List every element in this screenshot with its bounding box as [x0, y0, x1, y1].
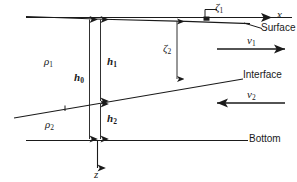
rho2-subscript: 2	[50, 123, 54, 132]
surface-label: Surface	[261, 23, 295, 33]
h0-label: h0	[74, 72, 84, 85]
h2-label: h2	[107, 113, 117, 126]
zeta1-label: ζ1	[215, 2, 223, 15]
h2-subscript: 2	[113, 117, 117, 126]
h0-subscript: 0	[80, 76, 84, 85]
surface-label-leader	[244, 23, 262, 29]
rho1-subscript: 1	[49, 60, 53, 69]
x-axis-label: x	[277, 9, 282, 20]
bottom-label: Bottom	[249, 134, 281, 144]
v1-subscript: 1	[252, 39, 256, 48]
surface-displacement-marker	[204, 17, 210, 21]
rho2-label: ρ2	[45, 119, 54, 132]
v2-label: v2	[247, 89, 256, 102]
interface-line	[14, 79, 243, 118]
rho1-label: ρ1	[44, 56, 53, 69]
v2-subscript: 2	[252, 93, 256, 102]
v1-label: v1	[247, 35, 256, 48]
zeta2-label: ζ2	[163, 43, 171, 56]
h1-label: h1	[107, 56, 117, 69]
z-axis-label: z	[94, 169, 98, 180]
interface-label: Interface	[243, 70, 282, 80]
h1-subscript: 1	[113, 60, 117, 69]
zeta1-subscript: 1	[219, 6, 223, 15]
zeta2-subscript: 2	[167, 47, 171, 56]
two-layer-fluid-diagram: x z Surface Interface Bottom ρ1 ρ2 h0 h1…	[0, 0, 297, 182]
